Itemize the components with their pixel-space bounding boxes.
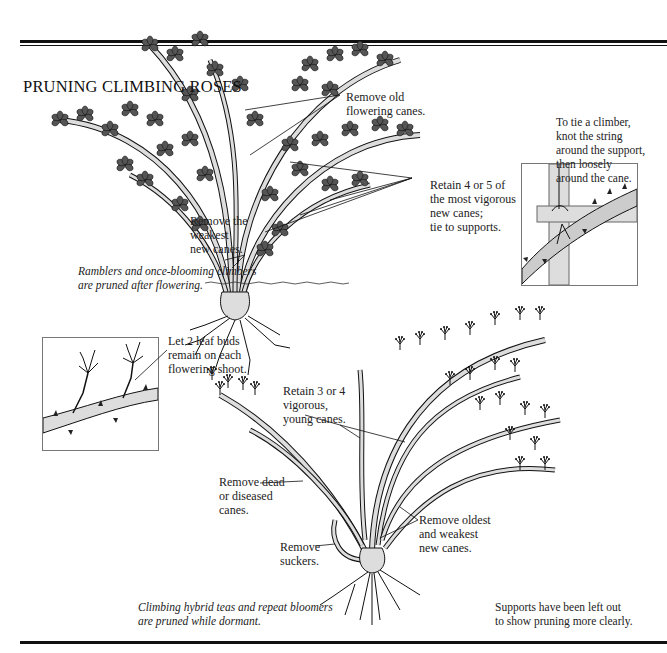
label-remove-dead: Remove dead or diseased canes. bbox=[219, 475, 285, 517]
page-title: PRUNING CLIMBING ROSES bbox=[23, 77, 242, 97]
caption-hybrid-teas: Climbing hybrid teas and repeat bloomers… bbox=[138, 600, 333, 628]
label-leaf-buds: Let 2 leaf buds remain on each flowering… bbox=[168, 334, 247, 376]
leaf-buds-inset bbox=[42, 337, 159, 451]
rose-pruning-illustration bbox=[0, 0, 667, 653]
label-remove-old-canes: Remove old flowering canes. bbox=[346, 90, 425, 118]
label-retain-3-or-4: Retain 3 or 4 vigorous, young canes. bbox=[283, 384, 346, 426]
label-remove-oldest: Remove oldest and weakest new canes. bbox=[419, 513, 491, 555]
climber-plant-bottom bbox=[220, 340, 560, 560]
label-remove-suckers: Remove suckers. bbox=[280, 540, 320, 568]
caption-ramblers: Ramblers and once-blooming climbers are … bbox=[78, 264, 257, 292]
label-remove-weakest: Remove the weakest new canes. bbox=[190, 214, 248, 256]
note-supports: Supports have been left out to show prun… bbox=[495, 600, 633, 628]
tie-climber-text: To tie a climber, knot the string around… bbox=[556, 115, 645, 185]
roots-bottom bbox=[320, 548, 420, 625]
label-retain-4-or-5: Retain 4 or 5 of the most vigorous new c… bbox=[430, 178, 516, 234]
leaf-buds-drawing bbox=[43, 338, 158, 450]
